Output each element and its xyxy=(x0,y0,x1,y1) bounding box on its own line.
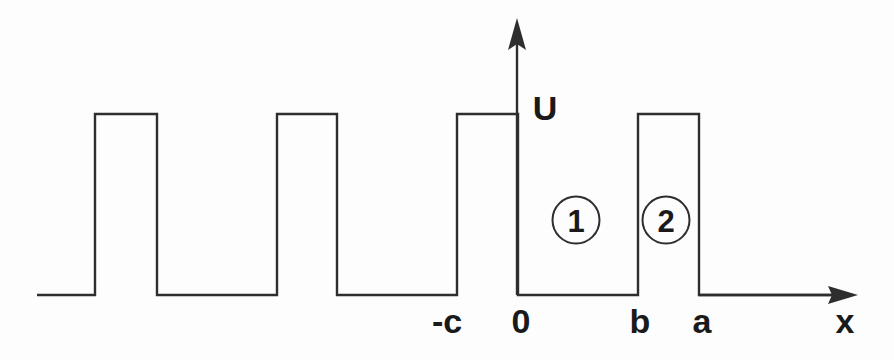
region-one-number: 1 xyxy=(567,204,584,239)
potential-plot-svg: U x -c 0 b a 1 2 xyxy=(0,0,894,360)
y-axis-label: U xyxy=(533,89,558,127)
region-two-number: 2 xyxy=(657,204,674,239)
region-marker-two: 2 xyxy=(643,197,690,244)
x-tick-label-zero: 0 xyxy=(512,302,531,340)
potential-step-curve xyxy=(37,114,832,295)
potential-diagram-figure: U x -c 0 b a 1 2 xyxy=(0,0,894,360)
x-tick-label-a: a xyxy=(693,302,713,340)
region-marker-one: 1 xyxy=(553,197,600,244)
x-axis-label: x xyxy=(836,302,855,340)
x-tick-label-minus-c: -c xyxy=(432,302,462,340)
x-tick-label-b: b xyxy=(630,302,651,340)
